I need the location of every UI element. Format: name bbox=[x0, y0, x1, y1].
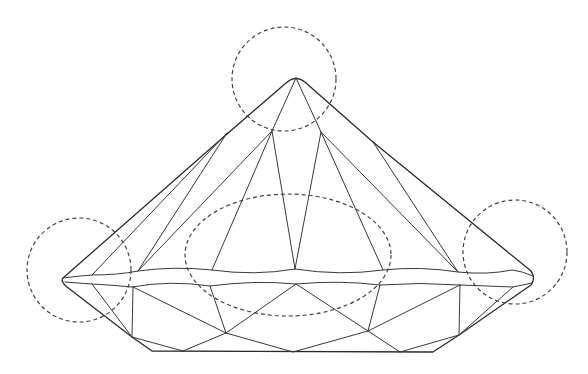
center-girdle-highlight-ellipse bbox=[185, 194, 391, 316]
pavilion-facets bbox=[92, 78, 458, 275]
left-girdle-highlight-circle bbox=[27, 218, 131, 322]
girdle-band bbox=[63, 268, 533, 287]
highlight-regions bbox=[27, 27, 567, 322]
crown-facets bbox=[92, 284, 513, 352]
culet-highlight-circle bbox=[232, 27, 336, 131]
right-girdle-highlight-circle bbox=[463, 200, 567, 304]
diamond-diagram bbox=[0, 0, 588, 374]
